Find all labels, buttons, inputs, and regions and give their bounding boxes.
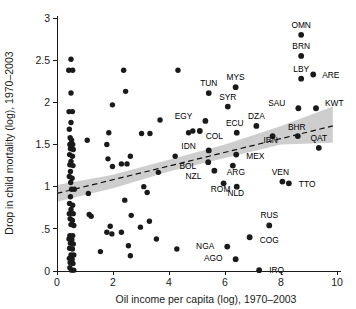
data-point xyxy=(172,154,177,159)
data-point-rus xyxy=(266,223,272,229)
data-point xyxy=(138,224,143,229)
point-label-tun: TUN xyxy=(200,78,217,88)
data-point xyxy=(154,236,159,241)
data-point xyxy=(70,68,75,73)
x-axis-ticks: 0246810 xyxy=(54,271,343,288)
x-tick-label: 10 xyxy=(331,276,343,288)
point-label-ago: AGO xyxy=(204,253,223,263)
data-point xyxy=(72,186,77,191)
data-point-mys xyxy=(233,84,239,90)
y-tick-label: 2 xyxy=(44,96,50,108)
data-point-nga xyxy=(224,244,230,250)
data-point xyxy=(174,246,179,251)
data-point xyxy=(71,211,76,216)
y-tick-label: 0 xyxy=(44,265,50,277)
data-point xyxy=(71,223,76,228)
data-point xyxy=(70,246,75,251)
point-label-dza: DZA xyxy=(248,111,265,121)
data-point xyxy=(139,131,144,136)
data-point xyxy=(68,57,73,62)
data-point-egy xyxy=(203,118,209,124)
data-point-ven xyxy=(280,179,286,185)
x-tick-label: 8 xyxy=(278,276,284,288)
data-point xyxy=(119,161,124,166)
point-label-ecu: ECU xyxy=(226,118,244,128)
point-label-omn: OMN xyxy=(291,20,311,30)
point-label-nga: NGA xyxy=(196,241,215,251)
data-point xyxy=(121,68,126,73)
x-axis-title: Oil income per capita (log), 1970–2003 xyxy=(116,293,297,305)
data-point-are xyxy=(310,72,316,78)
x-tick-label: 6 xyxy=(222,276,228,288)
data-point-dza xyxy=(253,123,259,129)
data-point xyxy=(70,154,75,159)
data-point xyxy=(68,180,73,185)
data-point xyxy=(129,213,134,218)
data-point-syr xyxy=(225,104,231,110)
data-point xyxy=(108,224,113,229)
point-label-egy: EGY xyxy=(175,111,193,121)
data-point-omn xyxy=(298,32,304,38)
data-point-sau xyxy=(295,105,301,111)
data-point-tto xyxy=(286,180,292,186)
data-point-tun xyxy=(206,90,212,96)
data-point-bol xyxy=(205,159,211,165)
point-label-nld: NLD xyxy=(227,188,244,198)
point-label-brn: BRN xyxy=(292,41,310,51)
point-label-kwt: KWT xyxy=(325,98,344,108)
data-point xyxy=(190,128,195,133)
point-label-ven: VEN xyxy=(272,167,289,177)
data-point-nzl xyxy=(211,168,217,174)
data-point xyxy=(85,138,90,143)
data-point-brn xyxy=(298,53,304,59)
y-tick-label: 3 xyxy=(44,12,50,24)
data-point xyxy=(128,154,133,159)
data-point xyxy=(106,130,111,135)
data-point-irq xyxy=(256,267,262,273)
point-label-syr: SYR xyxy=(219,92,236,102)
data-point xyxy=(104,230,109,235)
y-tick-label: 1.5 xyxy=(35,138,50,150)
point-label-arg: ARG xyxy=(227,167,245,177)
confidence-band-group xyxy=(57,107,333,202)
data-point xyxy=(68,169,73,174)
data-point xyxy=(110,102,115,107)
data-point-lby xyxy=(298,76,304,82)
confidence-band xyxy=(57,107,333,202)
data-point xyxy=(86,191,91,196)
data-point xyxy=(70,109,75,114)
point-label-mex: MEX xyxy=(246,151,265,161)
x-tick-label: 4 xyxy=(166,276,172,288)
data-point-qat xyxy=(316,145,322,151)
data-point-ago xyxy=(233,256,239,262)
data-point xyxy=(71,147,76,152)
y-tick-label: 2.5 xyxy=(35,54,50,66)
point-label-irn: IRN xyxy=(263,135,277,145)
data-point xyxy=(110,164,115,169)
data-point xyxy=(88,213,93,218)
data-point xyxy=(128,253,133,258)
data-point xyxy=(141,184,146,189)
y-axis-ticks: 0.511.522.53 xyxy=(35,12,57,277)
point-label-idn: IDN xyxy=(181,141,195,151)
point-label-tto: TTO xyxy=(299,179,316,189)
data-point xyxy=(156,170,161,175)
data-point-ecu xyxy=(234,130,240,136)
point-label-mys: MYS xyxy=(227,72,246,82)
data-point xyxy=(67,127,72,132)
point-label-rus: RUS xyxy=(260,210,278,220)
point-label-irq: IRQ xyxy=(269,265,284,275)
point-label-lby: LBY xyxy=(293,64,309,74)
scatter-plot-figure: OMNBRNLBYAREMYSTUNSYRSAUKWTEGYDZAECUCOLI… xyxy=(0,0,356,309)
data-point xyxy=(147,219,152,224)
point-label-cog: COG xyxy=(260,235,279,245)
data-point xyxy=(123,89,128,94)
data-point xyxy=(68,90,73,95)
point-label-nzl: NZL xyxy=(186,171,202,181)
x-tick-label: 0 xyxy=(54,276,60,288)
data-point-mex xyxy=(233,152,239,158)
data-point xyxy=(71,267,76,272)
data-point xyxy=(98,249,103,254)
data-point-col xyxy=(197,128,203,134)
data-point xyxy=(105,156,110,161)
